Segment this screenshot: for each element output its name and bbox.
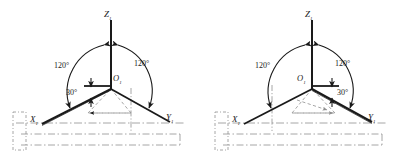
x-axis-line	[244, 89, 312, 124]
origin-label: O1	[113, 73, 122, 85]
origin-label: O1	[297, 73, 306, 85]
angle-30-label: 30°	[66, 88, 77, 97]
angle-120-left-label: 120°	[54, 61, 69, 70]
x-axis-label: X1	[29, 114, 38, 126]
arc-120-left	[67, 45, 104, 108]
left-end-marker-box	[215, 112, 228, 150]
projection-diagonal-arrow	[297, 100, 327, 110]
angle-120-right-label: 120°	[134, 59, 149, 68]
arc-120-right	[118, 45, 152, 108]
figure-root: Z1 X1 Y1 O1 120° 120° 30°	[0, 0, 403, 165]
right-diagram-svg: Z1 X1 Y1 O1 120° 120° 30°	[201, 0, 403, 165]
angle-120-left-label: 120°	[255, 61, 270, 70]
z-axis-label: Z1	[305, 9, 313, 21]
y-axis-label: Y1	[166, 112, 174, 124]
y-axis-line	[111, 89, 170, 122]
z-axis-label: Z1	[104, 9, 112, 21]
projection-triangle	[88, 89, 131, 113]
right-diagram-panel: Z1 X1 Y1 O1 120° 120° 30°	[201, 0, 402, 165]
left-end-marker-box	[13, 112, 26, 150]
arc-120-right	[319, 45, 353, 108]
reference-box-lower	[223, 134, 382, 145]
projection-triangle	[292, 89, 335, 113]
angle-30-label: 30°	[337, 88, 348, 97]
left-diagram-svg: Z1 X1 Y1 O1 120° 120° 30°	[0, 0, 201, 165]
y-axis-label: Y1	[368, 112, 376, 124]
angle-120-right-label: 120°	[335, 59, 350, 68]
left-diagram-panel: Z1 X1 Y1 O1 120° 120° 30°	[0, 0, 201, 165]
reference-box-lower	[21, 134, 180, 145]
x-axis-label: X1	[231, 114, 240, 126]
